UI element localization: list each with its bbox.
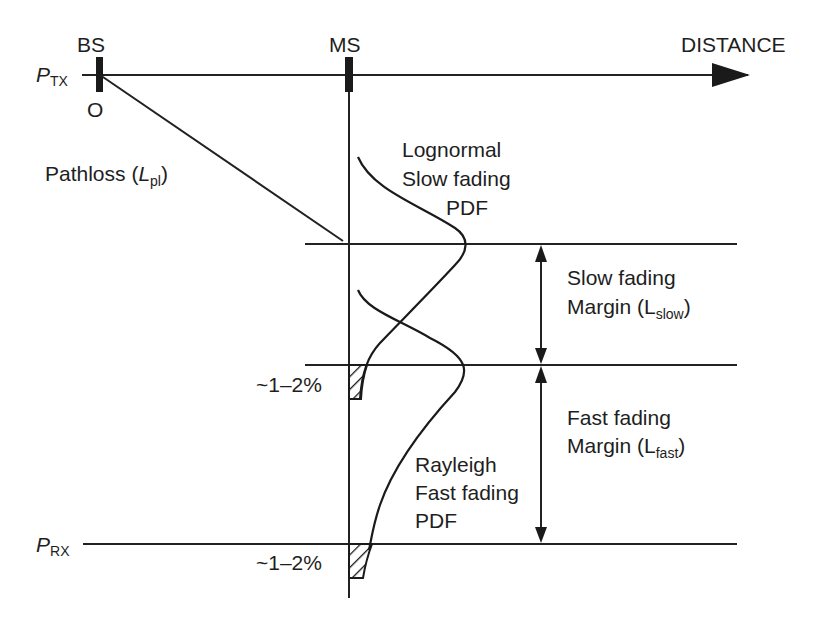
lognormal-label-line2: Slow fading xyxy=(402,167,511,190)
arrow-up-icon xyxy=(535,366,547,383)
bs-label: BS xyxy=(77,33,105,56)
rayleigh-label-line3: PDF xyxy=(415,509,457,532)
fast-margin-arrow xyxy=(535,366,547,543)
ms-label: MS xyxy=(329,33,361,56)
arrow-down-icon xyxy=(535,348,547,364)
origin-label: O xyxy=(87,98,103,121)
rayleigh-label-line1: Rayleigh xyxy=(415,453,497,476)
rayleigh-label-line2: Fast fading xyxy=(415,481,519,504)
lognormal-label-line1: Lognormal xyxy=(402,138,501,161)
fast-margin-label-line2: Margin (Lfast) xyxy=(567,434,685,461)
distance-label: DISTANCE xyxy=(681,33,786,56)
outage-upper-label: ~1–2% xyxy=(256,373,322,396)
fast-margin-label-line1: Fast fading xyxy=(567,406,671,429)
lognormal-pdf-curve xyxy=(358,157,466,399)
slow-margin-label-line2: Margin (Lslow) xyxy=(567,295,691,322)
ptx-label: PTX xyxy=(36,63,69,89)
slow-margin-label-line1: Slow fading xyxy=(567,266,676,289)
link-budget-diagram: BS MS DISTANCE O PTX PRX Pathloss (Lpl) … xyxy=(0,0,827,628)
pathloss-label: Pathloss (Lpl) xyxy=(45,162,168,189)
distance-arrowhead-icon xyxy=(712,63,750,87)
arrow-down-icon xyxy=(535,527,547,543)
arrow-up-icon xyxy=(535,245,547,262)
prx-label: PRX xyxy=(36,533,70,559)
pathloss-line xyxy=(100,75,343,241)
slow-margin-arrow xyxy=(535,245,547,364)
outage-lower-label: ~1–2% xyxy=(256,551,322,574)
lognormal-label-line3: PDF xyxy=(446,196,488,219)
ms-marker xyxy=(345,57,353,92)
bs-marker xyxy=(96,57,103,92)
